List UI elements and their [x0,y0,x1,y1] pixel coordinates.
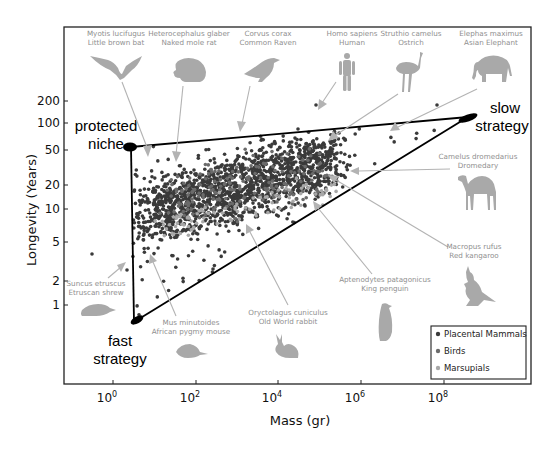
x-axis: 100 102 104 106 108 Mass (gr) [97,380,448,428]
svg-text:Marsupials: Marsupials [444,363,490,373]
x-axis-title: Mass (gr) [270,413,331,428]
svg-text:Human: Human [339,38,365,47]
svg-text:102: 102 [180,390,200,405]
species-penguin: Aptenodytes patagonicus King penguin [339,275,431,341]
slow-strategy-label: slow [490,99,520,116]
svg-text:strategy: strategy [93,350,147,367]
y-tick: 1 [52,298,68,312]
svg-text:Homo sapiens: Homo sapiens [327,29,378,38]
species-pygmy-mouse: Mus minutoides African pygmy mouse [152,318,231,358]
svg-text:Suncus etruscus: Suncus etruscus [67,279,126,288]
svg-text:strategy: strategy [475,117,529,134]
svg-text:5: 5 [52,235,60,249]
svg-text:10: 10 [45,202,60,216]
svg-text:Etruscan shrew: Etruscan shrew [68,288,123,297]
svg-text:Heterocephalus glaber: Heterocephalus glaber [148,29,230,38]
svg-text:Macropus rufus: Macropus rufus [446,242,501,251]
svg-text:King penguin: King penguin [361,284,408,293]
svg-text:African pygmy mouse: African pygmy mouse [152,327,231,336]
old-world-rabbit-icon [275,334,298,358]
svg-text:2: 2 [52,274,60,288]
elephant-icon [472,56,512,82]
red-kangaroo-icon [464,266,496,306]
svg-text:Aptenodytes patagonicus: Aptenodytes patagonicus [339,275,431,284]
african-pygmy-mouse-icon [176,344,208,358]
fast-strategy-vertex [129,313,145,326]
svg-text:Common Raven: Common Raven [239,38,296,47]
protected-niche-label: protected [75,117,138,134]
king-penguin-icon [379,303,393,341]
species-molerat: Heterocephalus glaber Naked mole rat [148,29,230,82]
species-shrew: Suncus etruscus Etruscan shrew [67,279,126,316]
species-elephant: Elephas maximus Asian Elephant [459,29,523,82]
svg-text:Naked mole rat: Naked mole rat [161,38,216,47]
protected-niche-vertex [123,143,137,152]
svg-text:Ostrich: Ostrich [398,38,424,47]
lifespan-mass-chart: 200 100 50 20 10 5 2 1 Longevity (Years)… [0,0,553,452]
legend-item-marsupials: Marsupials [436,363,490,373]
svg-text:Oryctolagus cuniculus: Oryctolagus cuniculus [248,308,328,317]
bat-icon [90,56,142,80]
svg-text:Dromedary: Dromedary [458,161,499,170]
svg-text:Old World rabbit: Old World rabbit [259,317,318,326]
human-icon [339,53,355,91]
species-camel: Camelus dromedarius Dromedary [439,152,518,210]
raven-icon [244,58,280,82]
species-kangaroo: Macropus rufus Red kangaroo [446,242,501,306]
svg-text:Mus minutoides: Mus minutoides [163,318,220,327]
svg-text:20: 20 [45,178,60,192]
svg-text:200: 200 [37,94,60,108]
species-raven: Corvus corax Common Raven [239,29,296,82]
species-bat: Myotis lucifugus Little brown bat [87,29,145,80]
svg-text:104: 104 [262,390,282,405]
svg-text:Camelus dromedarius: Camelus dromedarius [439,152,518,161]
svg-text:108: 108 [428,390,448,405]
svg-text:50: 50 [45,143,60,157]
svg-text:1: 1 [52,298,60,312]
species-ostrich: Struthio camelus Ostrich [380,29,441,92]
svg-text:106: 106 [345,390,365,405]
y-axis-title: Longevity (Years) [24,154,39,266]
ostrich-icon [396,52,423,92]
svg-text:Asian Elephant: Asian Elephant [464,38,518,47]
y-axis: 200 100 50 20 10 5 2 1 Longevity (Years) [24,94,68,312]
legend-item-placental-mammals: Placental Mammals [436,329,527,339]
svg-text:100: 100 [97,390,117,405]
y-tick: 5 [52,235,68,249]
naked-mole-rat-icon [173,58,206,82]
svg-text:Struthio camelus: Struthio camelus [380,29,441,38]
svg-text:Birds: Birds [444,346,466,356]
species-human: Homo sapiens Human [327,29,378,91]
svg-text:Elephas maximus: Elephas maximus [459,29,523,38]
svg-text:Little brown bat: Little brown bat [88,38,145,47]
etruscan-shrew-icon [81,304,116,316]
dromedary-icon [458,175,496,210]
legend: Placental Mammals Birds Marsupials [431,326,527,379]
svg-text:Myotis lucifugus: Myotis lucifugus [87,29,145,38]
fast-strategy-label: fast [108,332,133,349]
svg-text:niche: niche [88,135,124,152]
svg-text:Red kangaroo: Red kangaroo [449,251,499,260]
svg-text:Corvus corax: Corvus corax [244,29,292,38]
svg-text:Placental Mammals: Placental Mammals [444,329,527,339]
svg-text:100: 100 [37,116,60,130]
species-rabbit: Oryctolagus cuniculus Old World rabbit [248,308,328,358]
